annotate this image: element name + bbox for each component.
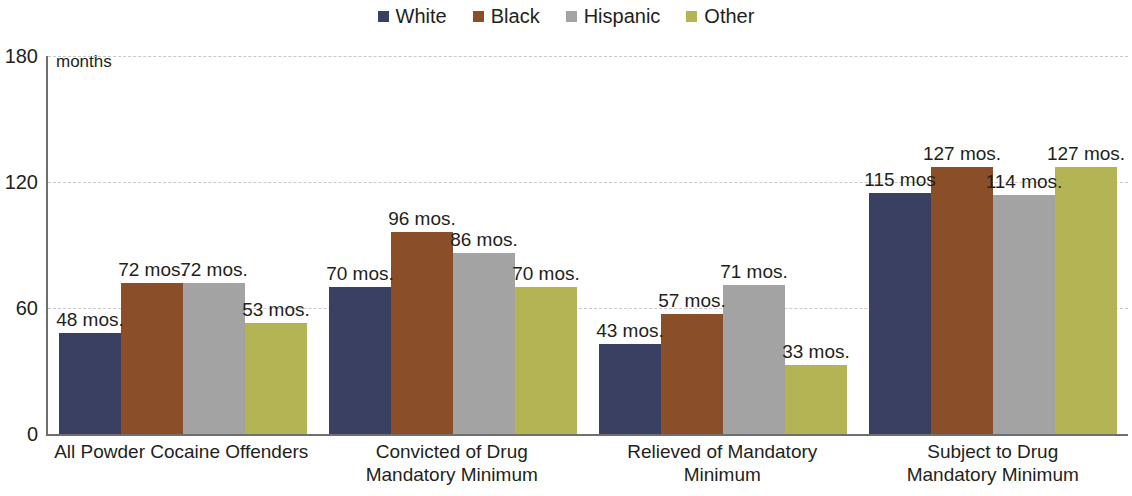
bar-group-bars: 115 mos127 mos.114 mos.127 mos.	[869, 56, 1117, 434]
bar-chart: WhiteBlackHispanicOther months 060120180…	[0, 0, 1132, 496]
bar-value-label: 127 mos.	[923, 144, 1001, 164]
x-axis-category-line: Subject to Drug	[858, 440, 1129, 463]
legend-item-black[interactable]: Black	[473, 6, 540, 26]
bar-white[interactable]: 70 mos.	[329, 287, 391, 434]
bar-value-label: 48 mos.	[56, 310, 124, 330]
bar-group: 43 mos.57 mos.71 mos.33 mos.	[588, 56, 858, 434]
bar-value-label: 72 mos.	[118, 260, 186, 280]
legend-label: White	[396, 6, 447, 26]
bar-value-label: 71 mos.	[720, 262, 788, 282]
bar-value-label: 96 mos.	[388, 209, 456, 229]
bar-fill	[391, 232, 453, 434]
y-axis-tick-label: 0	[0, 423, 38, 446]
bar-other[interactable]: 70 mos.	[515, 287, 577, 434]
bar-value-label: 43 mos.	[596, 321, 664, 341]
bar-black[interactable]: 57 mos.	[661, 314, 723, 434]
bar-hispanic[interactable]: 71 mos.	[723, 285, 785, 434]
bar-fill	[329, 287, 391, 434]
bar-fill	[453, 253, 515, 434]
bar-group-bars: 48 mos.72 mos.72 mos.53 mos.	[59, 56, 307, 434]
bar-group-bars: 43 mos.57 mos.71 mos.33 mos.	[599, 56, 847, 434]
x-axis-category-label: Relieved of MandatoryMinimum	[587, 440, 858, 486]
bar-group: 48 mos.72 mos.72 mos.53 mos.	[48, 56, 318, 434]
bar-other[interactable]: 53 mos.	[245, 323, 307, 434]
x-axis-category-line: Minimum	[587, 463, 858, 486]
x-axis-labels: All Powder Cocaine OffendersConvicted of…	[46, 440, 1128, 486]
x-axis-category-line: Mandatory Minimum	[858, 463, 1129, 486]
bar-value-label: 72 mos.	[180, 260, 248, 280]
bar-fill	[599, 344, 661, 434]
y-axis-tick-label: 120	[0, 171, 38, 194]
bar-value-label: 57 mos.	[658, 291, 726, 311]
legend-label: Hispanic	[584, 6, 661, 26]
bar-value-label: 53 mos.	[242, 300, 310, 320]
bar-fill	[993, 195, 1055, 434]
chart-legend: WhiteBlackHispanicOther	[0, 6, 1132, 26]
x-axis-category-line: Mandatory Minimum	[317, 463, 588, 486]
bar-fill	[1055, 167, 1117, 434]
bar-fill	[515, 287, 577, 434]
square-swatch-icon	[473, 11, 484, 22]
y-axis-tick-label: 180	[0, 45, 38, 68]
bar-other[interactable]: 33 mos.	[785, 365, 847, 434]
bar-value-label: 127 mos.	[1047, 144, 1125, 164]
bar-white[interactable]: 48 mos.	[59, 333, 121, 434]
square-swatch-icon	[566, 11, 577, 22]
legend-item-other[interactable]: Other	[686, 6, 754, 26]
x-axis-category-label: All Powder Cocaine Offenders	[46, 440, 317, 486]
bar-white[interactable]: 115 mos	[869, 193, 931, 435]
bar-group: 70 mos.96 mos.86 mos.70 mos.	[318, 56, 588, 434]
bar-value-label: 114 mos.	[986, 172, 1063, 192]
bar-fill	[661, 314, 723, 434]
bar-value-label: 86 mos.	[450, 230, 518, 250]
x-axis-category-label: Subject to DrugMandatory Minimum	[858, 440, 1129, 486]
x-axis-category-line: Relieved of Mandatory	[587, 440, 858, 463]
bar-hispanic[interactable]: 114 mos.	[993, 195, 1055, 434]
bar-fill	[785, 365, 847, 434]
x-axis-category-line: Convicted of Drug	[317, 440, 588, 463]
legend-item-hispanic[interactable]: Hispanic	[566, 6, 661, 26]
bar-fill	[931, 167, 993, 434]
bar-groups: 48 mos.72 mos.72 mos.53 mos.70 mos.96 mo…	[48, 56, 1128, 434]
bar-fill	[869, 193, 931, 435]
bar-white[interactable]: 43 mos.	[599, 344, 661, 434]
legend-label: Other	[704, 6, 754, 26]
bar-fill	[245, 323, 307, 434]
bar-value-label: 70 mos.	[326, 264, 394, 284]
bar-hispanic[interactable]: 72 mos.	[183, 283, 245, 434]
bar-other[interactable]: 127 mos.	[1055, 167, 1117, 434]
bar-group-bars: 70 mos.96 mos.86 mos.70 mos.	[329, 56, 577, 434]
bar-fill	[183, 283, 245, 434]
y-axis-tick-label: 60	[0, 297, 38, 320]
bar-fill	[723, 285, 785, 434]
bar-black[interactable]: 96 mos.	[391, 232, 453, 434]
bar-value-label: 70 mos.	[512, 264, 580, 284]
bar-value-label: 115 mos	[864, 170, 935, 190]
bar-fill	[121, 283, 183, 434]
legend-label: Black	[491, 6, 540, 26]
bar-value-label: 33 mos.	[782, 342, 850, 362]
bar-black[interactable]: 127 mos.	[931, 167, 993, 434]
bar-group: 115 mos127 mos.114 mos.127 mos.	[858, 56, 1128, 434]
bar-fill	[59, 333, 121, 434]
x-axis-category-line: All Powder Cocaine Offenders	[46, 440, 317, 463]
bar-hispanic[interactable]: 86 mos.	[453, 253, 515, 434]
bar-black[interactable]: 72 mos.	[121, 283, 183, 434]
square-swatch-icon	[378, 11, 389, 22]
legend-item-white[interactable]: White	[378, 6, 447, 26]
x-axis-category-label: Convicted of DrugMandatory Minimum	[317, 440, 588, 486]
plot-area: months 060120180 48 mos.72 mos.72 mos.53…	[46, 56, 1128, 436]
square-swatch-icon	[686, 11, 697, 22]
